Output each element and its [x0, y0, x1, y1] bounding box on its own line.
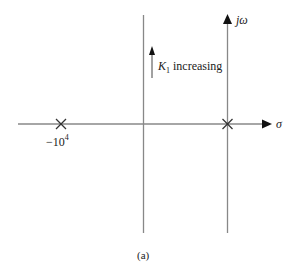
k-increasing-arrow-icon: [149, 46, 155, 55]
sigma-label: σ: [276, 117, 283, 131]
imaginary-axis-arrow-icon: [223, 14, 232, 24]
root-locus-diagram: σ jω K1increasing −104 (a): [0, 0, 287, 271]
jomega-label: jω: [234, 13, 248, 27]
figure-caption: (a): [137, 249, 150, 262]
real-axis-arrow-icon: [262, 120, 272, 129]
pole-left-label: −104: [46, 133, 69, 149]
k-increasing-label: K1increasing: [157, 59, 222, 75]
